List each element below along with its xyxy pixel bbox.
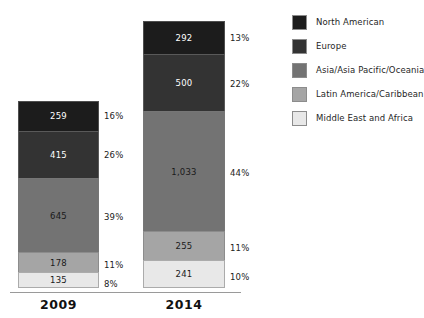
segment-value-label: 645 <box>50 212 67 221</box>
segment-value-label: 178 <box>50 259 67 268</box>
bar-segment: 259 <box>18 101 99 131</box>
x-axis-label-2009: 2009 <box>18 299 99 312</box>
legend-swatch-icon <box>292 39 307 54</box>
segment-percent-label: 8% <box>104 280 118 289</box>
legend-item: Europe <box>292 38 423 54</box>
plot-area: 16%26%39%11%8%259415645178135200913%22%4… <box>0 0 270 318</box>
legend-item: Middle East and Africa <box>292 110 423 126</box>
segment-value-label: 241 <box>176 270 193 279</box>
chart-legend: North AmericanEuropeAsia/Asia Pacific/Oc… <box>292 14 423 134</box>
segment-percent-label: 10% <box>230 273 250 282</box>
legend-item-label: Europe <box>316 42 347 51</box>
segment-percent-label: 11% <box>104 261 124 270</box>
segment-value-label: 1,033 <box>171 168 196 177</box>
legend-item-label: North American <box>316 18 384 27</box>
bar-segment: 1,033 <box>143 111 225 232</box>
bar-segment: 178 <box>18 252 99 273</box>
segment-percent-label: 44% <box>230 169 250 178</box>
segment-value-label: 135 <box>50 276 67 285</box>
bar-segment: 500 <box>143 54 225 112</box>
segment-value-label: 292 <box>176 34 193 43</box>
legend-item-label: Asia/Asia Pacific/Oceania <box>316 66 424 75</box>
bar-segment: 135 <box>18 272 99 288</box>
legend-swatch-icon <box>292 63 307 78</box>
segment-value-label: 259 <box>50 112 67 121</box>
legend-swatch-icon <box>292 87 307 102</box>
segment-value-label: 500 <box>176 79 193 88</box>
x-axis-label-2014: 2014 <box>143 299 225 312</box>
bar-2009: 259415645178135 <box>18 101 99 292</box>
segment-percent-label: 26% <box>104 151 124 160</box>
legend-item: Asia/Asia Pacific/Oceania <box>292 62 423 78</box>
x-axis-line <box>10 292 241 293</box>
legend-item: North American <box>292 14 423 30</box>
segment-percent-label: 16% <box>104 112 124 121</box>
legend-swatch-icon <box>292 15 307 30</box>
bar-segment: 645 <box>18 178 99 253</box>
bar-2014: 2925001,033255241 <box>143 21 225 292</box>
legend-item: Latin America/Caribbean <box>292 86 423 102</box>
legend-item-label: Latin America/Caribbean <box>316 90 424 99</box>
segment-value-label: 255 <box>176 242 193 251</box>
segment-value-label: 415 <box>50 151 67 160</box>
legend-swatch-icon <box>292 111 307 126</box>
bar-segment: 292 <box>143 21 225 55</box>
bar-segment: 255 <box>143 231 225 261</box>
bar-segment: 241 <box>143 260 225 288</box>
segment-percent-label: 22% <box>230 80 250 89</box>
bar-segment: 415 <box>18 131 99 179</box>
segment-percent-label: 13% <box>230 34 250 43</box>
segment-percent-label: 11% <box>230 244 250 253</box>
legend-item-label: Middle East and Africa <box>316 114 413 123</box>
segment-percent-label: 39% <box>104 213 124 222</box>
